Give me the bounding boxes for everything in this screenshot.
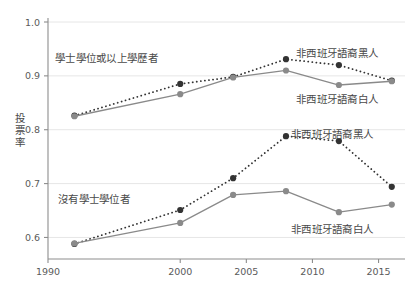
data-point <box>336 82 342 88</box>
y-tick-label-4: 1.0 <box>25 17 40 28</box>
data-point <box>283 56 289 62</box>
data-point <box>71 240 77 246</box>
data-point <box>177 220 183 226</box>
chart-container: 投票率 0.60.70.80.91.019902000200520102015 … <box>0 0 415 294</box>
data-point <box>336 62 342 68</box>
x-tick-label-3: 2010 <box>300 266 324 277</box>
data-point <box>283 133 289 139</box>
data-point <box>177 81 183 87</box>
data-point <box>230 175 236 181</box>
annotation-upper-black: 非西班牙語裔黑人 <box>296 45 378 60</box>
data-point <box>283 67 289 73</box>
data-point <box>283 188 289 194</box>
data-point <box>389 202 395 208</box>
x-tick-label-0: 1990 <box>36 266 60 277</box>
data-point <box>177 207 183 213</box>
data-point <box>71 113 77 119</box>
series-line-0 <box>74 59 391 116</box>
y-tick-label-3: 0.9 <box>25 70 40 81</box>
x-tick-label-4: 2015 <box>366 266 390 277</box>
data-point <box>389 184 395 190</box>
data-point <box>389 78 395 84</box>
annotation-group-upper: 學士學位或以上學歷者 <box>55 50 158 65</box>
annotation-group-lower: 沒有學士學位者 <box>58 191 130 206</box>
annotation-lower-black: 非西班牙語裔黑人 <box>291 126 373 141</box>
y-tick-label-2: 0.8 <box>25 124 40 135</box>
x-tick-label-1: 2000 <box>168 266 192 277</box>
data-point <box>177 91 183 97</box>
x-tick-label-2: 2005 <box>234 266 258 277</box>
annotation-upper-white: 非西班牙語裔白人 <box>296 91 378 106</box>
y-tick-label-1: 0.7 <box>25 178 40 189</box>
y-tick-label-0: 0.6 <box>25 232 40 243</box>
annotation-lower-white: 非西班牙語裔白人 <box>291 221 373 236</box>
data-point <box>230 192 236 198</box>
data-point <box>336 209 342 215</box>
data-point <box>230 74 236 80</box>
